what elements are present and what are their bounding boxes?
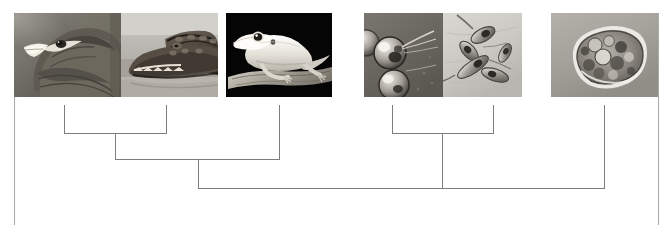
branch-tip-eagle	[64, 105, 65, 134]
branch-tip-amoeba	[604, 105, 605, 189]
eagle-head-photo	[14, 13, 121, 97]
clade-bar-protist-cells	[392, 133, 494, 134]
spindle-cells-photo	[443, 13, 522, 97]
clade-stem-eagle-crocodile	[115, 133, 116, 160]
flagellated-cells-photo	[364, 13, 443, 97]
branch-tip-flagellated-cells	[392, 105, 393, 134]
amoeba-photo	[551, 13, 658, 97]
branch-tip-gecko	[279, 105, 280, 160]
clade-stem-protist-cells	[442, 133, 443, 189]
root-bar	[198, 188, 605, 189]
clade-stem-reptiles	[198, 159, 199, 189]
branch-tip-spindle-cells	[493, 105, 494, 134]
right-frame-rule	[658, 13, 659, 225]
branch-tip-crocodile	[166, 105, 167, 134]
gecko-lizard-photo	[226, 13, 332, 97]
cladogram-figure	[0, 0, 670, 228]
crocodile-head-photo	[121, 13, 218, 97]
